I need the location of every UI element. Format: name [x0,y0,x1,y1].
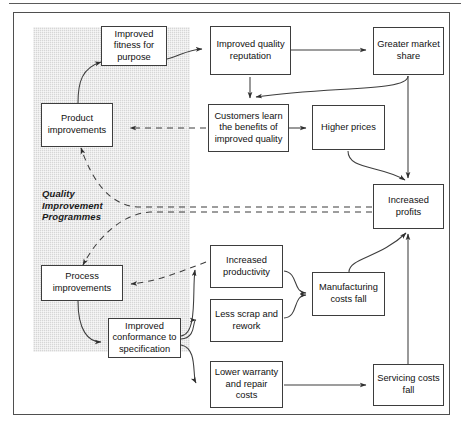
node-label: Improved fitness for purpose [105,29,163,64]
node-label: Improved quality reputation [214,39,287,62]
node-label: Lower warranty and repair costs [214,367,279,402]
node-less-scrap-and-rework[interactable]: Less scrap and rework [210,299,283,342]
node-greater-market-share[interactable]: Greater market share [373,27,444,75]
node-label: Increased productivity [214,255,279,278]
node-label: Less scrap and rework [214,309,279,332]
node-label: Product improvements [45,113,109,136]
node-increased-profits[interactable]: Increased profits [373,184,444,229]
node-improved-conformance-to-specification[interactable]: Improved conformance to specification [108,318,181,358]
node-servicing-costs-fall[interactable]: Servicing costs fall [373,364,444,406]
node-label: Greater market share [377,39,440,62]
node-manufacturing-costs-fall[interactable]: Manufacturing costs fall [312,272,385,316]
node-label: Increased profits [377,195,440,218]
node-customers-learn-the-benefits-of-improved-quality[interactable]: Customers learn the benefits of improved… [208,104,289,152]
node-label: Customers learn the benefits of improved… [212,111,285,146]
figure-canvas: Quality Improvement Programmes [0,0,468,430]
node-label: Process improvements [45,271,119,294]
node-product-improvements[interactable]: Product improvements [41,103,113,147]
node-improved-fitness-for-purpose[interactable]: Improved fitness for purpose [101,26,167,66]
top-rule-divider [9,3,461,4]
node-lower-warranty-and-repair-costs[interactable]: Lower warranty and repair costs [210,361,283,408]
node-improved-quality-reputation[interactable]: Improved quality reputation [210,26,291,75]
node-increased-productivity[interactable]: Increased productivity [210,245,283,288]
node-label: Higher prices [316,122,381,134]
node-higher-prices[interactable]: Higher prices [312,105,385,150]
node-label: Servicing costs fall [377,373,440,396]
node-label: Improved conformance to specification [112,321,177,356]
region-label-quality-improvement-programmes: Quality Improvement Programmes [42,188,132,223]
node-label: Manufacturing costs fall [316,282,381,305]
node-process-improvements[interactable]: Process improvements [41,265,123,301]
